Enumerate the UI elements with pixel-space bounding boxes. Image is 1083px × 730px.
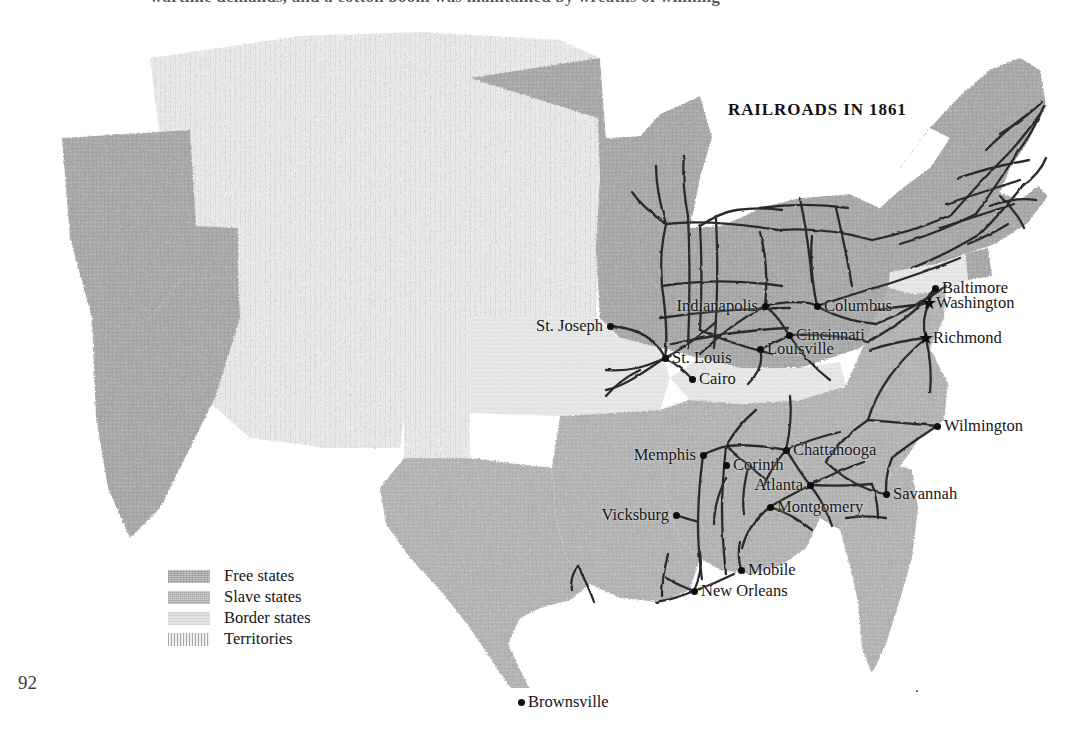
city-label-brownsville: Brownsville [528, 694, 609, 711]
city-marker-brownsville [518, 699, 525, 706]
running-header-text: wartime demands, and a cotton boom was m… [150, 0, 720, 7]
page-running-header: wartime demands, and a cotton boom was m… [0, 0, 1083, 16]
page-number: 92 [18, 672, 37, 694]
page-edge-tick [916, 690, 918, 692]
us-map-svg [0, 18, 1083, 688]
map-figure: RAILROADS IN 1861 St. JosephSt. LouisCai… [0, 18, 1083, 688]
